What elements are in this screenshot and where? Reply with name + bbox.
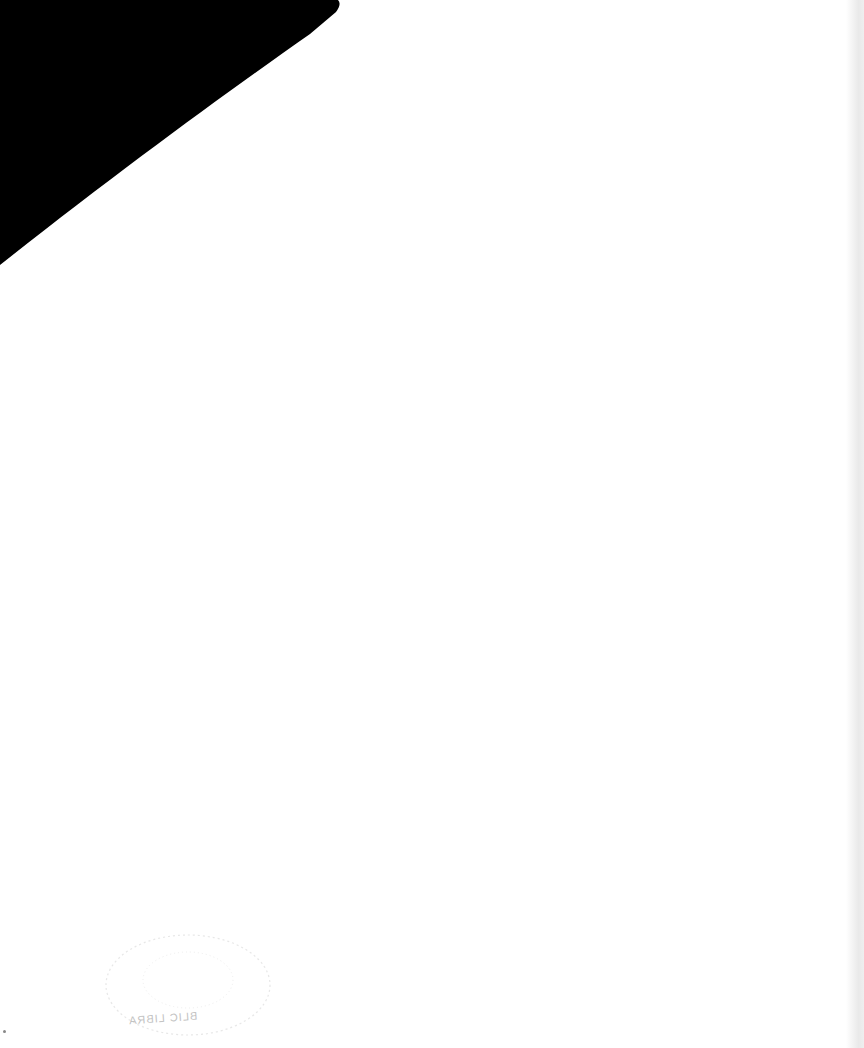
page-edge-shadow (846, 0, 864, 1048)
black-corner-mask (0, 0, 345, 270)
scanned-page: BLIC LIBRA (0, 0, 864, 1048)
library-stamp (100, 930, 280, 1045)
scan-speck (3, 1030, 6, 1033)
